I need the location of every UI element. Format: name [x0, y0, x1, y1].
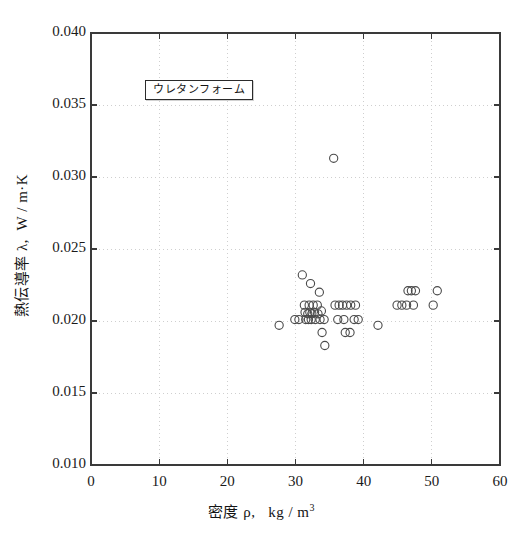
- x-tick-label: 30: [276, 473, 316, 490]
- x-axis-title-symbol: ρ,: [243, 504, 255, 520]
- x-axis-title-exponent: 3: [310, 502, 316, 513]
- y-axis-title-main: 熱伝導率: [14, 255, 32, 317]
- x-tick-label: 0: [71, 473, 111, 490]
- x-axis-title: 密度 ρ, kg / m3: [0, 500, 523, 521]
- x-tick-label: 60: [480, 473, 520, 490]
- x-axis-title-main: 密度: [208, 503, 239, 521]
- x-tick-label: 40: [344, 473, 384, 490]
- y-axis-title-symbol: λ,: [15, 238, 31, 250]
- y-axis-title: 熱伝導率 λ, W / m·K: [6, 110, 36, 380]
- x-tick-label: 10: [139, 473, 179, 490]
- x-axis-title-unit: kg / m: [268, 504, 309, 520]
- chart-figure: 0.0100.0150.0200.0250.0300.0350.040 0102…: [0, 0, 523, 536]
- x-tick-label: 20: [207, 473, 247, 490]
- y-axis-title-unit: W / m·K: [15, 173, 31, 230]
- legend-box: ウレタンフォーム: [145, 80, 253, 100]
- legend-label: ウレタンフォーム: [153, 83, 245, 96]
- x-axis-tick-labels: 0102030405060: [0, 0, 523, 536]
- x-tick-label: 50: [412, 473, 452, 490]
